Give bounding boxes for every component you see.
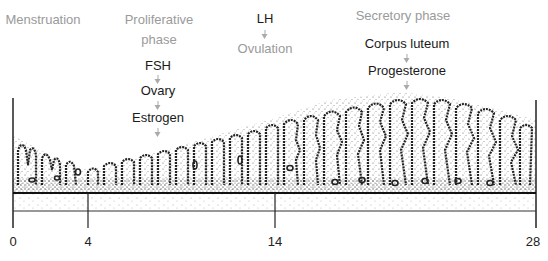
axis-label-day-0: 0 [9,234,16,249]
axis-label-day-14: 14 [268,234,282,249]
axis-label-day-4: 4 [84,234,91,249]
basal-dense-zone [13,178,536,193]
endometrium-illustration [0,0,548,261]
axis-label-day-28: 28 [526,234,540,249]
